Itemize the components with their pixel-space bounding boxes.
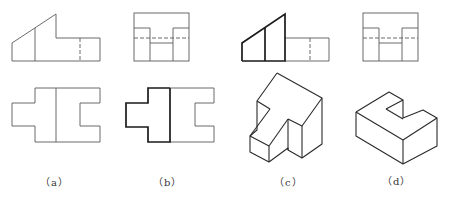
panel-b-side-view <box>134 13 189 61</box>
panel-c-isometric-solid <box>250 73 322 162</box>
panel-d-isometric-solid <box>356 92 437 164</box>
panel-label-c: （c） <box>274 174 303 189</box>
panel-c-front-view <box>242 14 329 61</box>
figure-canvas <box>0 0 449 197</box>
panel-a-top-view <box>12 88 100 142</box>
panel-b-top-view <box>126 88 214 142</box>
panel-a-front-view <box>12 14 100 61</box>
panel-d-side-view <box>363 13 418 61</box>
panel-label-d: （d） <box>382 173 411 188</box>
panel-label-a: （a） <box>40 174 69 189</box>
panel-label-b: （b） <box>153 174 182 189</box>
